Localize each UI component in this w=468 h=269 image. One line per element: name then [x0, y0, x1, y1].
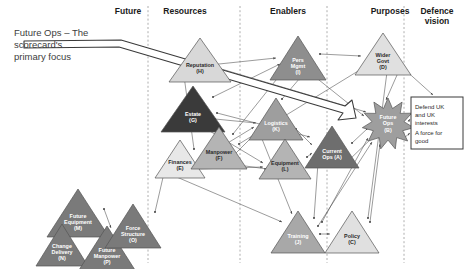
node-logistics[interactable]: Logistics(K) — [249, 98, 303, 140]
edge-futureequipment-to-forcestructure — [104, 209, 111, 228]
node-estate-label: (G) — [189, 117, 197, 123]
column-header-enablers: Enablers — [270, 6, 306, 16]
node-futureops-label: Ops — [383, 120, 393, 126]
node-equipment[interactable]: Equipment(L) — [259, 139, 311, 179]
node-forcestructure-label: (O) — [129, 237, 137, 243]
node-futureequipment-label: (M) — [74, 225, 82, 231]
diagram-canvas: Reputation(H)Estate(G)Finances(E)Manpowe… — [0, 0, 468, 269]
node-shapes: Reputation(H)Estate(G)Finances(E)Manpowe… — [36, 33, 414, 269]
node-estate[interactable]: Estate(G) — [161, 86, 225, 132]
edge-policy-to-futureops — [370, 144, 380, 222]
node-policy-label: (C) — [348, 239, 356, 245]
node-training[interactable]: Training(J) — [271, 211, 325, 253]
node-training-label: (J) — [295, 239, 302, 245]
node-widergovt[interactable]: WiderGovt(D) — [355, 33, 411, 75]
node-futuremanpower-label: (P) — [103, 259, 110, 265]
node-manpower[interactable]: Manpower(F) — [191, 127, 247, 169]
node-futureops[interactable]: FutureOps(B) — [362, 98, 413, 149]
node-persmgmt[interactable]: PersMgmt(I) — [270, 36, 326, 80]
column-headers: FutureResourcesEnablersPurposesDefencevi… — [115, 6, 454, 26]
node-equipment-label: (L) — [282, 166, 289, 172]
diagram-svg: Reputation(H)Estate(G)Finances(E)Manpowe… — [0, 0, 468, 269]
edge-persmgmt-to-widergovt — [320, 54, 361, 56]
edge-equipment-to-currentops — [307, 153, 312, 157]
node-futureops-label: (B) — [384, 127, 392, 133]
node-persmgmt-label: (I) — [295, 69, 300, 75]
node-manpower-label: (F) — [216, 155, 223, 161]
column-header-defence: vision — [425, 16, 450, 26]
edge-forcestructure-to-finances — [155, 173, 164, 212]
column-header-defence: Defence — [420, 6, 453, 16]
node-reputation-label: (H) — [196, 68, 204, 74]
node-logistics-triangle — [249, 98, 303, 140]
node-estate-triangle — [161, 86, 225, 132]
column-header-resources: Resources — [163, 6, 207, 16]
column-header-future: Future — [115, 6, 142, 16]
edge-to-vision-box-0 — [408, 119, 410, 122]
node-forcestructure[interactable]: ForceStructure(O) — [105, 204, 161, 248]
edge-training-to-currentops — [314, 163, 318, 218]
node-policy[interactable]: Policy(C) — [325, 211, 379, 253]
node-currentops-triangle — [305, 126, 359, 168]
node-policy-triangle — [325, 211, 379, 253]
node-training-triangle — [271, 211, 325, 253]
node-futureequipment[interactable]: FutureEquipment(M) — [47, 189, 109, 237]
edge-finances-to-training — [172, 175, 282, 222]
edge-estate-to-logistics — [215, 119, 256, 123]
edge-currentops-to-futureops — [352, 128, 368, 143]
node-widergovt-label: (D) — [379, 64, 387, 70]
node-manpower-triangle — [191, 127, 247, 169]
column-header-purposes: Purposes — [371, 6, 410, 16]
node-futureops-label: Future — [380, 114, 397, 120]
vision-box-group: Defend UKand UKinterestsA force forgood — [411, 97, 463, 149]
node-changedelivery-label: (N) — [58, 255, 66, 261]
node-currentops-label: Ops (A) — [322, 154, 342, 160]
node-finances-label: (E) — [176, 165, 183, 171]
node-currentops[interactable]: CurrentOps (A) — [305, 126, 359, 168]
node-logistics-label: (K) — [272, 126, 280, 132]
